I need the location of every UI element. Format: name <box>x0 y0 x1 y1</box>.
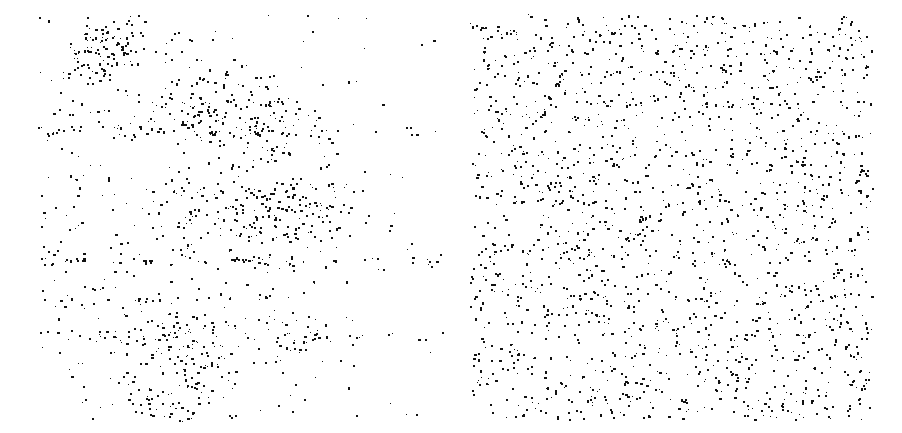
uniform-random-pattern-canvas <box>470 14 874 422</box>
uniform-random-pattern-panel <box>470 14 874 422</box>
figure-root: Clustered point pattern Uniform random p… <box>0 0 902 433</box>
clustered-pattern-canvas <box>38 14 444 422</box>
clustered-pattern-panel <box>38 14 444 422</box>
